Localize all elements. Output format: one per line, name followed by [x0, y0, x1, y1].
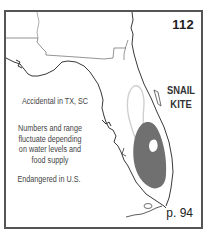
- florida-keys: [126, 206, 162, 217]
- plate-number: 112: [172, 17, 194, 32]
- species-name: SNAIL KITE: [167, 83, 195, 111]
- species-name-line2: KITE: [167, 97, 195, 111]
- note-fluctuation: Numbers and range fluctuate depending on…: [16, 123, 84, 165]
- range-map-frame: 112 SNAIL KITE Accidental in TX, SC Numb…: [4, 10, 203, 229]
- note-endangered: Endangered in U.S.: [16, 174, 82, 185]
- note-accidental: Accidental in TX, SC: [17, 96, 94, 107]
- page-reference: p. 94: [166, 206, 193, 220]
- state-border-line: [6, 38, 126, 59]
- florida-map: [6, 12, 201, 227]
- range-area: [133, 122, 166, 188]
- species-name-line1: SNAIL: [167, 83, 195, 97]
